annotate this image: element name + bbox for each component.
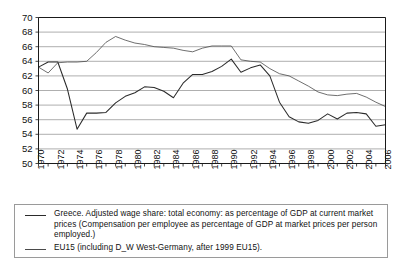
x-axis-tick-label: 1972 bbox=[56, 149, 66, 169]
x-axis-tick-label: 1994 bbox=[268, 149, 278, 169]
legend-label-greece-line3: employed.) bbox=[54, 230, 95, 239]
y-axis-tick-label: 68 bbox=[22, 26, 33, 37]
legend-label-greece: Greece. Adjusted wage share: total econo… bbox=[54, 209, 383, 241]
y-axis-tick-label: 66 bbox=[22, 41, 33, 52]
x-axis-tick-label: 1984 bbox=[171, 149, 181, 169]
x-axis-tick-label: 1990 bbox=[229, 149, 239, 169]
x-axis-tick-label: 2006 bbox=[383, 149, 393, 169]
legend-label-eu15-line1: EU15 (including D_W West-Germany, after … bbox=[54, 243, 262, 252]
x-axis-tick-label: 2002 bbox=[345, 149, 355, 169]
legend-label-eu15: EU15 (including D_W West-Germany, after … bbox=[54, 243, 262, 254]
legend-item-greece: Greece. Adjusted wage share: total econo… bbox=[15, 205, 387, 241]
y-axis-tick-label: 52 bbox=[22, 143, 33, 154]
x-axis-tick-label: 1970 bbox=[36, 149, 46, 169]
y-axis-tick-label: 60 bbox=[22, 85, 33, 96]
legend-label-greece-line2: prices (Compensation per employee as per… bbox=[54, 220, 377, 229]
legend-item-eu15: EU15 (including D_W West-Germany, after … bbox=[15, 241, 387, 254]
legend-line-swatch-greece bbox=[25, 215, 46, 216]
x-axis-tick-label: 2000 bbox=[326, 149, 336, 169]
x-axis-tick-label: 1980 bbox=[133, 149, 143, 169]
x-axis-tick-label: 1986 bbox=[191, 149, 201, 169]
x-axis-tick-label: 1976 bbox=[94, 149, 104, 169]
y-axis-tick-label: 50 bbox=[22, 158, 33, 169]
y-axis-tick-label: 64 bbox=[22, 55, 33, 66]
legend-line-swatch-eu15 bbox=[25, 249, 46, 250]
legend-label-greece-line1: Greece. Adjusted wage share: total econo… bbox=[54, 209, 373, 218]
y-axis-tick-label: 58 bbox=[22, 99, 33, 110]
y-axis-tick-label: 70 bbox=[22, 12, 33, 23]
x-axis-tick-label: 2004 bbox=[364, 149, 374, 169]
series-line-greece bbox=[39, 59, 386, 129]
x-axis-tick-label: 1988 bbox=[210, 149, 220, 169]
x-axis-tick-label: 1974 bbox=[75, 149, 85, 169]
y-axis-tick-label: 54 bbox=[22, 128, 33, 139]
x-axis-tick-label: 1996 bbox=[287, 149, 297, 169]
chart-plot-area: 5052545658606264666870197019721974197619… bbox=[0, 0, 409, 205]
y-axis-tick-label: 56 bbox=[22, 114, 33, 125]
x-axis-tick-label: 1982 bbox=[152, 149, 162, 169]
chart-legend: Greece. Adjusted wage share: total econo… bbox=[14, 204, 388, 258]
wage-share-figure: 5052545658606264666870197019721974197619… bbox=[0, 0, 409, 275]
line-chart-svg: 5052545658606264666870197019721974197619… bbox=[0, 0, 409, 205]
x-axis-tick-label: 1998 bbox=[306, 149, 316, 169]
x-axis-tick-label: 1992 bbox=[249, 149, 259, 169]
x-axis-tick-label: 1978 bbox=[114, 149, 124, 169]
y-axis-tick-label: 62 bbox=[22, 70, 33, 81]
